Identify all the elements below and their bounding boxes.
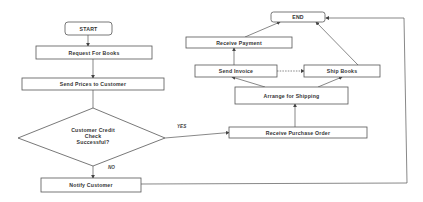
svg-text:Receive Payment: Receive Payment [216, 40, 262, 46]
node-start: START [65, 22, 112, 35]
node-send-prices: Send Prices to Customer [22, 78, 164, 90]
svg-text:Successful?: Successful? [77, 139, 110, 145]
svg-text:Notify Customer: Notify Customer [69, 182, 112, 188]
edge-payment-to-end [245, 22, 280, 37]
node-end: END [271, 12, 325, 22]
node-request-books: Request For Books [36, 46, 152, 59]
node-ship-books: Ship Books [304, 65, 380, 77]
svg-text:Send Prices to Customer: Send Prices to Customer [60, 81, 126, 87]
edge-shipping-to-ship [318, 77, 342, 87]
node-receive-payment: Receive Payment [186, 37, 292, 48]
svg-text:Ship Books: Ship Books [327, 68, 358, 74]
label-no: NO [108, 165, 115, 170]
edge-shipping-to-invoice [232, 77, 265, 87]
node-notify-customer: Notify Customer [41, 178, 141, 192]
svg-text:Send Invoice: Send Invoice [219, 68, 253, 74]
svg-text:START: START [80, 26, 99, 32]
node-send-invoice: Send Invoice [195, 65, 277, 77]
svg-text:Request For Books: Request For Books [69, 50, 120, 56]
flowchart-canvas: START Request For Books Send Prices to C… [0, 0, 423, 202]
svg-text:Arrange for Shipping: Arrange for Shipping [264, 93, 320, 99]
node-credit-check-decision: Customer Credit Check Successful? [18, 108, 165, 166]
edge-ship-to-end [316, 22, 358, 65]
edge-decision-yes [165, 133, 229, 139]
node-receive-purchase-order: Receive Purchase Order [229, 127, 367, 138]
svg-text:END: END [292, 14, 304, 20]
svg-text:Receive Purchase Order: Receive Purchase Order [266, 130, 330, 136]
node-arrange-shipping: Arrange for Shipping [235, 87, 348, 104]
label-yes: YES [177, 124, 187, 129]
